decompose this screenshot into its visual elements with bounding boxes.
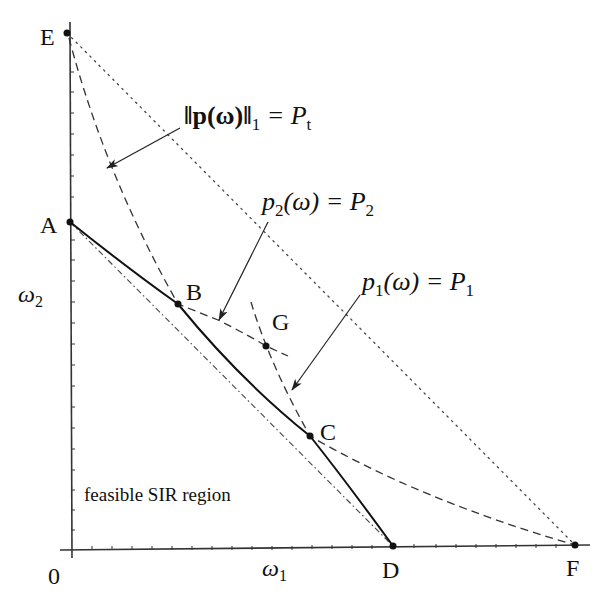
x-axis-label: ω1 xyxy=(262,555,287,584)
point-a xyxy=(67,219,74,226)
y-axis xyxy=(70,22,72,558)
label-b: B xyxy=(186,279,202,305)
origin-label: 0 xyxy=(48,563,60,589)
x-axis xyxy=(60,545,590,550)
label-e: E xyxy=(40,24,55,50)
label-c: C xyxy=(320,419,336,445)
arrow-total-power xyxy=(107,128,180,168)
sir-region-diagram: E A B G C D F 0 ω1 ω2 ‖p(ω)‖1 = Pt p2(ω)… xyxy=(0,0,613,604)
feasible-region-label: feasible SIR region xyxy=(84,484,231,505)
label-d: D xyxy=(382,557,399,583)
point-b xyxy=(175,301,182,308)
point-f xyxy=(572,542,579,549)
total-power-annotation: ‖p(ω)‖1 = Pt xyxy=(184,101,312,134)
arrow-p2 xyxy=(219,222,268,320)
arrow-p1 xyxy=(292,295,360,390)
p2-constraint-curve xyxy=(69,38,288,356)
point-c xyxy=(307,433,314,440)
label-g: G xyxy=(272,309,289,335)
p1-constraint-curve xyxy=(251,302,575,545)
p2-annotation: p2(ω) = P2 xyxy=(260,187,374,220)
p1-annotation: p1(ω) = P1 xyxy=(360,267,474,300)
total-power-line xyxy=(67,33,575,545)
label-f: F xyxy=(566,555,579,581)
point-g xyxy=(263,343,270,350)
label-a: A xyxy=(40,212,58,238)
point-d xyxy=(390,543,397,550)
y-axis-label: ω2 xyxy=(18,281,43,310)
point-e xyxy=(64,30,71,37)
